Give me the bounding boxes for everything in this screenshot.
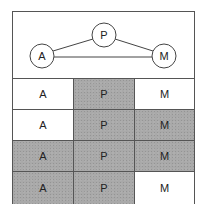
grid-row-2: A P M — [13, 110, 194, 141]
edge-a-p — [53, 39, 93, 51]
grid-row-3: A P M — [13, 141, 194, 172]
grid-row-1: A P M — [13, 79, 194, 110]
node-p: P — [92, 23, 116, 47]
figure-frame: A P M A P M A P M A P M A P M — [12, 11, 195, 204]
grid-cell: A — [13, 172, 74, 204]
grid-cell: A — [13, 141, 74, 171]
grid-cell: P — [74, 110, 135, 140]
shading-grid: A P M A P M A P M A P M — [13, 78, 194, 203]
node-m-label: M — [159, 50, 168, 62]
grid-cell: M — [135, 141, 194, 171]
grid-cell: P — [74, 172, 135, 204]
grid-cell: A — [13, 79, 74, 109]
node-m: M — [152, 44, 176, 68]
grid-cell: M — [135, 79, 194, 109]
node-a: A — [30, 44, 54, 68]
node-graph: A P M — [13, 12, 194, 78]
grid-cell: A — [13, 110, 74, 140]
grid-cell: M — [135, 172, 194, 204]
grid-cell: P — [74, 141, 135, 171]
node-p-label: P — [100, 29, 107, 41]
grid-cell: P — [74, 79, 135, 109]
grid-cell: M — [135, 110, 194, 140]
node-a-label: A — [38, 50, 46, 62]
edge-p-m — [115, 39, 153, 51]
grid-row-4: A P M — [13, 172, 194, 204]
